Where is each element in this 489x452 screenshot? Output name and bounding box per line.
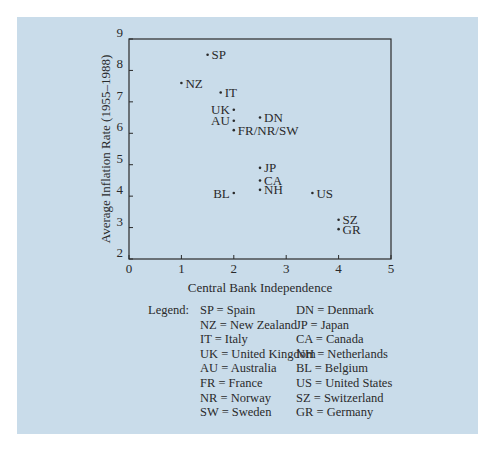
legend-item: JP = Japan bbox=[296, 318, 392, 333]
data-point: IT bbox=[219, 85, 237, 100]
point-marker bbox=[311, 192, 314, 195]
legend-column-2: DN = Denmark JP = Japan CA = Canada NH =… bbox=[296, 303, 392, 420]
data-point: SP bbox=[206, 47, 226, 62]
data-point: US bbox=[311, 186, 333, 201]
point-marker bbox=[233, 129, 236, 132]
point-label: NZ bbox=[185, 76, 202, 91]
x-tick-label: 2 bbox=[231, 261, 238, 276]
point-label: SP bbox=[212, 47, 226, 62]
point-marker bbox=[259, 116, 262, 119]
data-point: NH bbox=[259, 182, 283, 197]
data-point: GR bbox=[337, 222, 361, 237]
legend-item: US = United States bbox=[296, 376, 392, 391]
y-tick-label: 7 bbox=[117, 88, 124, 103]
y-tick-label: 8 bbox=[117, 56, 124, 71]
point-marker bbox=[337, 218, 340, 221]
y-tick-label: 5 bbox=[117, 151, 124, 166]
point-label: FR/NR/SW bbox=[238, 123, 299, 138]
legend-item: BL = Belgium bbox=[296, 361, 392, 376]
point-marker bbox=[233, 192, 236, 195]
axis-ticks: 01234523456789 bbox=[117, 25, 395, 276]
point-label: NH bbox=[264, 182, 283, 197]
point-marker bbox=[206, 53, 209, 56]
legend-item: GR = Germany bbox=[296, 405, 392, 420]
point-marker bbox=[259, 179, 262, 182]
point-marker bbox=[233, 108, 236, 111]
point-label: US bbox=[316, 186, 333, 201]
point-label: AU bbox=[211, 113, 230, 128]
x-tick-label: 5 bbox=[388, 261, 395, 276]
point-marker bbox=[233, 119, 236, 122]
x-tick-label: 4 bbox=[335, 261, 342, 276]
data-points: SPNZITUKAUDNFR/NR/SWJPCANHBLUSSZGR bbox=[180, 47, 361, 236]
data-point: BL bbox=[213, 186, 235, 201]
point-marker bbox=[337, 228, 340, 231]
point-marker bbox=[259, 167, 262, 170]
point-label: GR bbox=[343, 222, 361, 237]
y-tick-label: 9 bbox=[117, 25, 124, 40]
legend-item: DN = Denmark bbox=[296, 303, 392, 318]
data-point: NZ bbox=[180, 76, 203, 91]
legend-item: CA = Canada bbox=[296, 332, 392, 347]
point-marker bbox=[259, 189, 262, 192]
y-tick-label: 3 bbox=[117, 214, 124, 229]
point-label: IT bbox=[225, 85, 237, 100]
x-tick-label: 1 bbox=[178, 261, 185, 276]
x-tick-label: 3 bbox=[283, 261, 290, 276]
point-marker bbox=[219, 91, 222, 94]
point-marker bbox=[180, 82, 183, 85]
legend-title: Legend: bbox=[148, 303, 189, 318]
point-label: BL bbox=[213, 186, 230, 201]
x-tick-label: 0 bbox=[126, 261, 133, 276]
legend-item: NH = Netherlands bbox=[296, 347, 392, 362]
y-tick-label: 4 bbox=[117, 182, 124, 197]
data-point: FR/NR/SW bbox=[233, 123, 300, 138]
y-tick-label: 6 bbox=[117, 119, 124, 134]
y-axis-title: Average Inflation Rate (1955–1988) bbox=[98, 55, 113, 244]
y-tick-label: 2 bbox=[117, 245, 124, 260]
data-point: AU bbox=[211, 113, 235, 128]
x-axis-title: Central Bank Independence bbox=[188, 280, 333, 295]
legend-item: SZ = Switzerland bbox=[296, 391, 392, 406]
